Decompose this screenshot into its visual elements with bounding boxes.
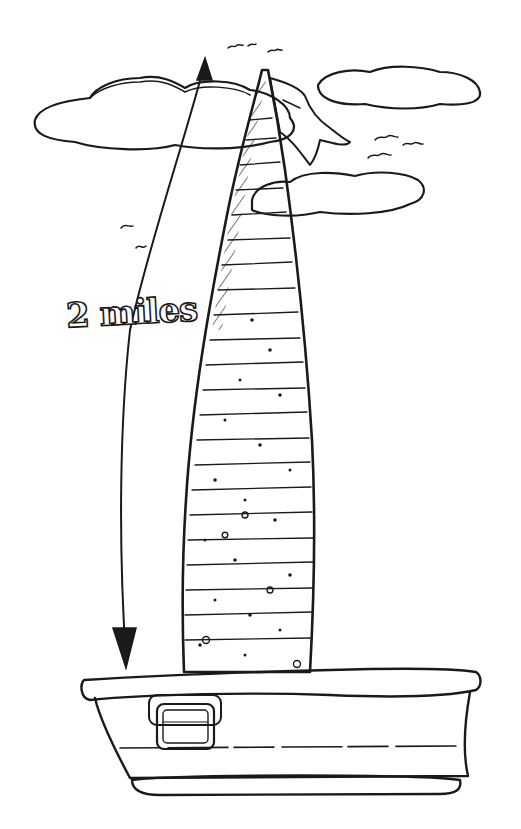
tub (82, 669, 481, 795)
illustration: 2 miles (0, 0, 521, 829)
tub-handle (149, 695, 221, 749)
cloud-right-top (318, 67, 480, 109)
carrot (183, 70, 314, 672)
measurement-label: 2 miles (65, 289, 198, 336)
cloud-middle (252, 173, 424, 216)
